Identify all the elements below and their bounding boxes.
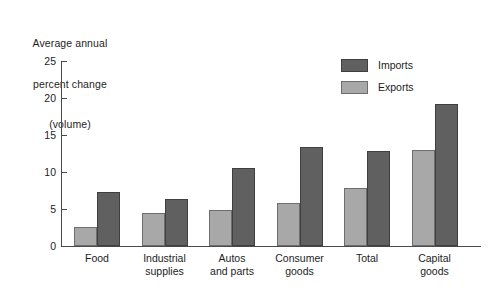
- y-axis-tick-25: [62, 61, 67, 62]
- bar-imports-total[interactable]: [367, 151, 390, 246]
- y-axis-label-20: 20: [26, 93, 56, 103]
- y-axis-label-0: 0: [26, 241, 56, 251]
- category-label-line: goods: [395, 265, 475, 278]
- bar-imports-autos-and-parts[interactable]: [232, 168, 255, 246]
- y-axis-line: [61, 61, 62, 247]
- y-axis-label-25: 25: [26, 56, 56, 66]
- bar-exports-industrial-supplies[interactable]: [142, 213, 165, 246]
- legend-swatch-imports-icon: [341, 59, 368, 72]
- bar-exports-total[interactable]: [344, 188, 367, 246]
- bar-exports-capital-goods[interactable]: [412, 150, 435, 246]
- bar-exports-food[interactable]: [74, 227, 97, 246]
- y-axis-tick-15: [62, 135, 67, 136]
- category-label-capital-goods: Capitalgoods: [395, 252, 475, 278]
- x-axis-line: [61, 246, 481, 247]
- bar-imports-consumer-goods[interactable]: [300, 147, 323, 246]
- y-axis-tick-20: [62, 98, 67, 99]
- y-axis-label-15: 15: [26, 130, 56, 140]
- category-label-line: Capital: [395, 252, 475, 265]
- bar-imports-capital-goods[interactable]: [435, 104, 458, 246]
- y-axis-tick-10: [62, 172, 67, 173]
- legend-label-exports: Exports: [378, 81, 414, 94]
- legend-swatch-exports-icon: [341, 81, 368, 94]
- bar-imports-food[interactable]: [97, 192, 120, 246]
- y-axis-tick-5: [62, 209, 67, 210]
- bar-imports-industrial-supplies[interactable]: [165, 199, 188, 246]
- legend-label-imports: Imports: [378, 59, 413, 72]
- bar-exports-autos-and-parts[interactable]: [209, 210, 232, 246]
- y-axis-label-10: 10: [26, 167, 56, 177]
- bar-chart-figure: Average annual percent change (volume) 2…: [0, 0, 489, 296]
- chart-axis-title-line-2: percent change: [12, 78, 128, 92]
- chart-axis-title-line-1: Average annual: [12, 37, 128, 51]
- y-axis-label-5: 5: [26, 204, 56, 214]
- category-label-line: goods: [260, 265, 340, 278]
- bar-exports-consumer-goods[interactable]: [277, 203, 300, 246]
